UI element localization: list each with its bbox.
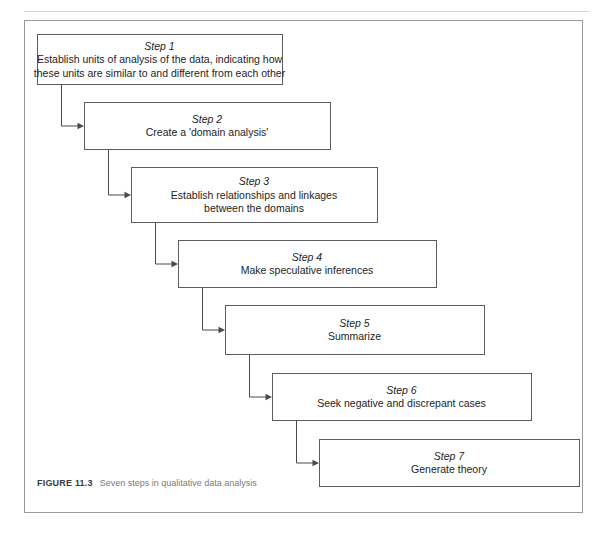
connector-step-1-to-step-2 bbox=[62, 84, 85, 129]
page-running-head bbox=[0, 0, 614, 16]
step-box-3[interactable]: Step 3Establish relationships and linkag… bbox=[132, 168, 378, 223]
connector-line-3 bbox=[156, 222, 173, 264]
connector-line-1 bbox=[62, 84, 79, 126]
step-title-1: Step 1 bbox=[144, 40, 174, 52]
connector-step-6-to-step-7 bbox=[297, 420, 320, 466]
step-text-1-line-1: Establish units of analysis of the data,… bbox=[37, 53, 283, 65]
connector-step-5-to-step-6 bbox=[250, 354, 273, 400]
step-text-6-line-1: Seek negative and discrepant cases bbox=[317, 397, 486, 409]
step-text-1-line-2: these units are similar to and different… bbox=[34, 67, 286, 79]
step-box-layer: Step 1Establish units of analysis of the… bbox=[34, 35, 580, 487]
connector-line-2 bbox=[109, 149, 126, 195]
step-box-5[interactable]: Step 5Summarize bbox=[226, 306, 485, 355]
step-title-5: Step 5 bbox=[339, 317, 370, 329]
step-box-4[interactable]: Step 4Make speculative inferences bbox=[179, 241, 437, 288]
flowchart-canvas: Step 1Establish units of analysis of the… bbox=[25, 21, 584, 514]
connector-step-2-to-step-3 bbox=[109, 149, 132, 198]
step-title-4: Step 4 bbox=[292, 251, 323, 263]
connector-line-6 bbox=[297, 420, 314, 463]
step-title-6: Step 6 bbox=[386, 384, 417, 396]
figure-frame: Step 1Establish units of analysis of the… bbox=[24, 20, 583, 513]
connector-line-4 bbox=[203, 287, 220, 330]
step-box-6[interactable]: Step 6Seek negative and discrepant cases bbox=[273, 374, 532, 421]
connector-step-4-to-step-5 bbox=[203, 287, 226, 333]
connector-arrowhead-4 bbox=[219, 327, 226, 333]
step-title-3: Step 3 bbox=[239, 175, 270, 187]
connector-line-5 bbox=[250, 354, 267, 397]
step-box-2[interactable]: Step 2Create a 'domain analysis' bbox=[85, 103, 331, 150]
connector-arrowhead-6 bbox=[313, 460, 320, 466]
step-title-7: Step 7 bbox=[434, 450, 466, 462]
connector-arrowhead-2 bbox=[125, 192, 132, 198]
step-text-5-line-1: Summarize bbox=[328, 330, 381, 342]
figure-caption-label: FIGURE 11.3 bbox=[37, 478, 93, 488]
step-box-1[interactable]: Step 1Establish units of analysis of the… bbox=[34, 35, 286, 85]
connector-arrowhead-5 bbox=[266, 394, 273, 400]
step-title-2: Step 2 bbox=[192, 113, 223, 125]
connector-step-3-to-step-4 bbox=[156, 222, 179, 267]
step-text-4-line-1: Make speculative inferences bbox=[241, 264, 374, 276]
connector-arrowhead-3 bbox=[172, 261, 179, 267]
step-text-3-line-2: between the domains bbox=[204, 202, 304, 214]
step-text-2-line-1: Create a 'domain analysis' bbox=[146, 126, 269, 138]
figure-caption-text: Seven steps in qualitative data analysis bbox=[100, 478, 257, 488]
figure-caption: FIGURE 11.3Seven steps in qualitative da… bbox=[37, 478, 537, 488]
connector-arrowhead-1 bbox=[78, 123, 85, 129]
step-text-7-line-1: Generate theory bbox=[411, 463, 488, 475]
step-text-3-line-1: Establish relationships and linkages bbox=[171, 189, 337, 201]
header-divider bbox=[24, 11, 590, 12]
